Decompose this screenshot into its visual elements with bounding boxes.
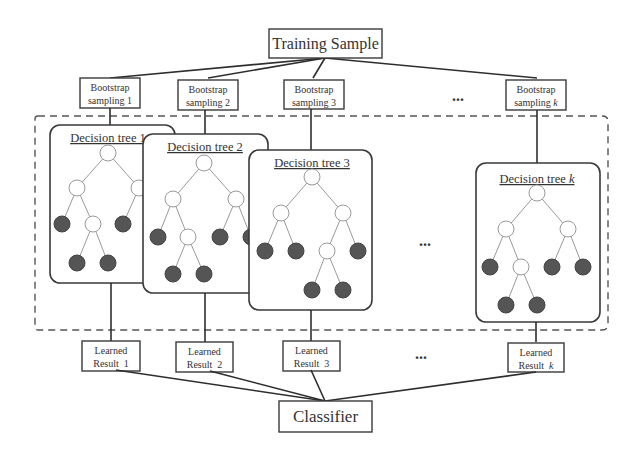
learned-3-line1: Learned: [295, 345, 328, 356]
decision-tree-2-label: Decision tree 2: [167, 140, 243, 154]
bootstrap-3-line1: Bootstrap: [295, 84, 334, 95]
classifier-label: Classifier: [293, 407, 358, 426]
bootstrap-node-k: Bootstrap sampling k: [506, 80, 566, 110]
training-sample-label: Training Sample: [272, 35, 379, 53]
bootstrap-node-1: Bootstrap sampling 1: [80, 78, 140, 108]
decision-tree-3-label: Decision tree 3: [274, 156, 350, 170]
random-forest-diagram: Training Sample Bootstrap sampling 1 Boo…: [0, 0, 641, 462]
decision-tree-k-label: Decision tree k: [500, 172, 575, 186]
learned-result-3: Learned Result 3: [283, 341, 340, 371]
bootstrap-1-line2: sampling 1: [88, 95, 132, 106]
learned-2-line2: Result 2: [187, 359, 223, 370]
learned-1-line1: Learned: [95, 345, 128, 356]
learned-result-2: Learned Result 2: [176, 342, 233, 372]
training-to-bootstrap-edges: [110, 58, 537, 78]
tree-ellipsis: ...: [419, 232, 431, 249]
learned-2-line1: Learned: [188, 346, 221, 357]
bootstrap-2-line1: Bootstrap: [189, 84, 228, 95]
bootstrap-3-line2: sampling 3: [292, 97, 336, 108]
result-ellipsis: ...: [415, 345, 427, 362]
bootstrap-2-line2: sampling 2: [186, 97, 230, 108]
decision-tree-3: Decision tree 3: [249, 150, 372, 310]
bootstrap-node-3: Bootstrap sampling 3: [284, 80, 344, 109]
result-to-classifier-edges: [116, 370, 536, 401]
learned-result-k: Learned Result k: [508, 343, 564, 372]
bootstrap-1-line1: Bootstrap: [91, 82, 130, 93]
learned-3-line2: Result 3: [294, 358, 330, 369]
training-sample-node: Training Sample: [269, 29, 382, 58]
decision-tree-1-label: Decision tree 1: [70, 131, 146, 145]
bootstrap-k-line1: Bootstrap: [517, 84, 556, 95]
decision-tree-k: Decision tree k: [476, 163, 600, 322]
bootstrap-ellipsis: ...: [452, 87, 464, 104]
bootstrap-node-2: Bootstrap sampling 2: [178, 80, 238, 110]
bootstrap-k-line2: sampling k: [514, 97, 558, 108]
learned-k-line1: Learned: [520, 347, 553, 358]
learned-k-line2: Result k: [518, 360, 554, 371]
classifier-node: Classifier: [279, 401, 372, 432]
learned-result-1: Learned Result 1: [82, 341, 140, 371]
learned-1-line2: Result 1: [93, 358, 129, 369]
